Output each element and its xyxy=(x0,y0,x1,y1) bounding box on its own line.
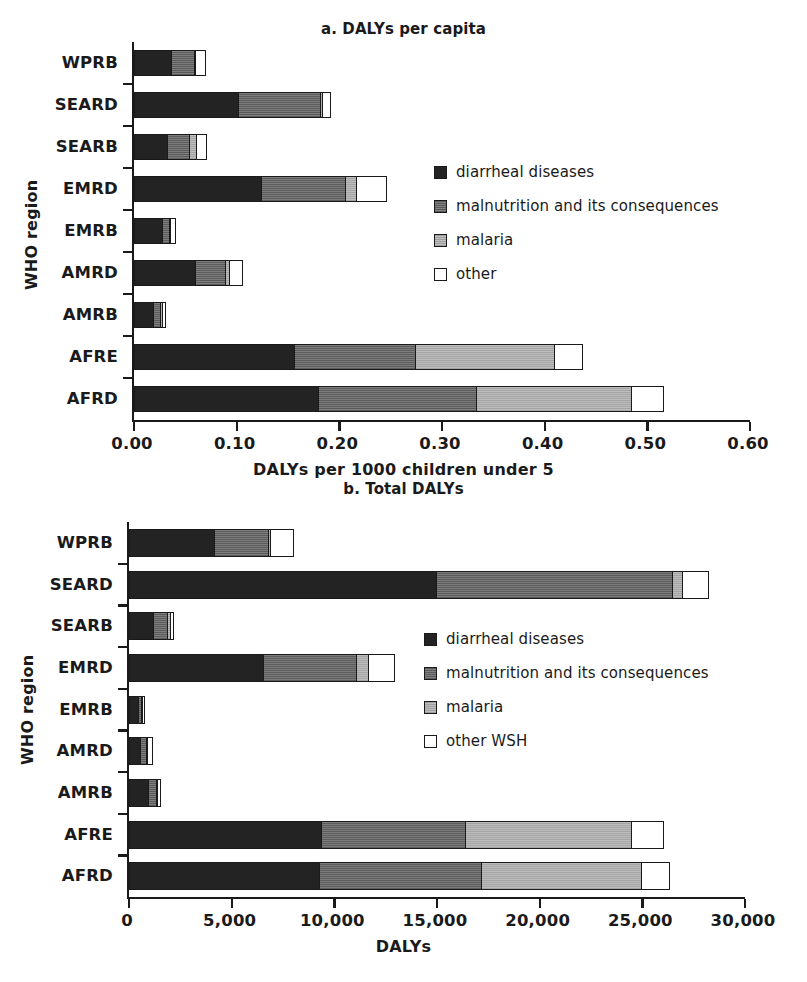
legend-item: other WSH xyxy=(424,724,709,758)
stacked-bar xyxy=(134,92,331,118)
stacked-bar xyxy=(134,218,176,244)
figure-dalys-by-who-region: a. DALYs per capita WHO region DALYs per… xyxy=(0,0,807,982)
bar-row xyxy=(134,344,750,370)
bar-row xyxy=(134,302,750,328)
legend-swatch-icon xyxy=(434,166,447,179)
bar-segment xyxy=(270,530,293,556)
bar-segment xyxy=(672,572,682,598)
bar-segment xyxy=(481,863,641,889)
bar-segment xyxy=(135,135,167,159)
y-axis-label-afrd: AFRD xyxy=(27,868,113,885)
legend-swatch-icon xyxy=(424,667,437,680)
legend-item: diarrheal diseases xyxy=(434,155,719,189)
bar-segment xyxy=(130,780,148,806)
x-axis-tick xyxy=(436,899,438,908)
stacked-bar xyxy=(134,302,166,328)
bar-segment xyxy=(135,93,238,117)
bar-segment xyxy=(135,219,162,243)
y-axis-label-emrb: EMRB xyxy=(27,702,113,719)
x-axis-tick-label: 30,000 xyxy=(693,911,793,930)
bar-segment xyxy=(148,780,155,806)
stacked-bar xyxy=(134,50,206,76)
y-axis-label-searb: SEARB xyxy=(27,618,113,635)
bar-segment xyxy=(170,219,174,243)
legend-swatch-icon xyxy=(434,200,447,213)
legend-label: other xyxy=(456,265,496,283)
panel-a-title: a. DALYs per capita xyxy=(0,20,807,38)
bar-segment xyxy=(318,387,476,411)
bar-segment xyxy=(130,863,319,889)
y-axis-label-afre: AFRE xyxy=(32,349,118,366)
bar-segment xyxy=(135,177,261,201)
stacked-bar xyxy=(129,779,161,807)
stacked-bar xyxy=(134,344,583,370)
bar-segment xyxy=(631,822,662,848)
bar-segment xyxy=(465,822,631,848)
bar-segment xyxy=(153,613,167,639)
y-axis-tick xyxy=(123,293,132,295)
panel-b-title: b. Total DALYs xyxy=(0,480,807,498)
x-axis-tick xyxy=(641,899,643,908)
x-axis-tick xyxy=(128,899,130,908)
bar-segment xyxy=(682,572,707,598)
y-axis-label-searb: SEARB xyxy=(32,139,118,156)
bar-segment xyxy=(476,387,631,411)
y-axis-tick xyxy=(123,251,132,253)
bar-row xyxy=(134,50,750,76)
bar-segment xyxy=(345,177,355,201)
panel-a-legend: diarrheal diseasesmalnutrition and its c… xyxy=(434,155,719,291)
y-axis-tick xyxy=(118,646,127,648)
y-axis-tick xyxy=(118,563,127,565)
bar-segment xyxy=(356,655,368,681)
legend-label: diarrheal diseases xyxy=(446,630,584,648)
bar-segment xyxy=(229,261,240,285)
y-axis-label-wprb: WPRB xyxy=(32,55,118,72)
legend-item: diarrheal diseases xyxy=(424,622,709,656)
y-axis-tick xyxy=(123,83,132,85)
legend-item: malnutrition and its consequences xyxy=(434,189,719,223)
x-axis-tick xyxy=(133,422,135,431)
x-axis-tick-label: 20,000 xyxy=(488,911,588,930)
bar-segment xyxy=(631,387,662,411)
y-axis-label-amrd: AMRD xyxy=(32,265,118,282)
y-axis-label-emrd: EMRD xyxy=(27,660,113,677)
x-axis-tick-label: 0.40 xyxy=(493,434,593,453)
x-axis-tick-label: 0.10 xyxy=(185,434,285,453)
y-axis-label-afrd: AFRD xyxy=(32,391,118,408)
bar-segment xyxy=(322,93,329,117)
y-axis-label-wprb: WPRB xyxy=(27,535,113,552)
bar-segment xyxy=(135,345,294,369)
legend-label: other WSH xyxy=(446,732,527,750)
bar-segment xyxy=(130,697,138,723)
bar-segment xyxy=(238,93,320,117)
x-axis-tick xyxy=(441,422,443,431)
bar-segment xyxy=(294,345,415,369)
stacked-bar xyxy=(134,260,243,286)
y-axis-tick xyxy=(118,688,127,690)
bar-segment xyxy=(162,303,164,327)
bar-row xyxy=(129,529,745,557)
bar-segment xyxy=(130,572,436,598)
bar-row xyxy=(129,571,745,599)
x-axis-tick-label: 0.30 xyxy=(390,434,490,453)
stacked-bar xyxy=(129,654,395,682)
bar-segment xyxy=(167,135,190,159)
legend-swatch-icon xyxy=(434,268,447,281)
bar-segment xyxy=(135,51,171,75)
bar-segment xyxy=(196,135,205,159)
stacked-bar xyxy=(129,696,145,724)
stacked-bar xyxy=(134,134,207,160)
bar-segment xyxy=(130,822,321,848)
stacked-bar xyxy=(134,176,387,202)
bar-segment xyxy=(162,219,169,243)
legend-swatch-icon xyxy=(424,701,437,714)
x-axis-tick xyxy=(749,422,751,431)
bar-row xyxy=(129,862,745,890)
bar-segment xyxy=(130,738,140,764)
legend-item: malaria xyxy=(434,223,719,257)
bar-segment xyxy=(157,780,159,806)
x-axis-tick xyxy=(544,422,546,431)
legend-item: malaria xyxy=(424,690,709,724)
bar-segment xyxy=(641,863,668,889)
stacked-bar xyxy=(129,862,670,890)
